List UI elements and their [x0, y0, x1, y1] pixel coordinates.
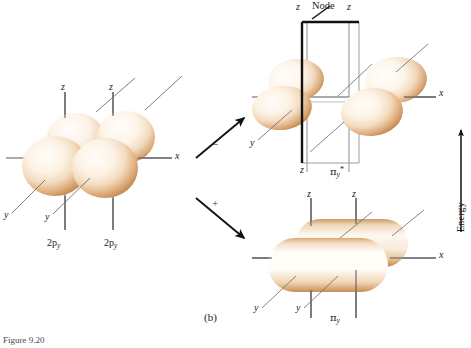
- orbital-label-2py-left-base: 2p: [47, 237, 57, 248]
- bonding-capsule-front: [268, 238, 388, 292]
- axis-label-y-bond-far-left: y: [254, 303, 258, 313]
- axis-label-z-reactant-right: z: [109, 82, 113, 92]
- axis-label-x-bond: x: [439, 250, 443, 260]
- reactant-orbital-group: [6, 76, 182, 230]
- figure-root: x z z y y 2py 2py − + Node z z x y z πy*…: [0, 0, 471, 348]
- axis-label-y-reactant-left: y: [45, 212, 49, 222]
- axis-label-z-reactant-left: z: [61, 82, 65, 92]
- bonding-sign: +: [212, 198, 218, 209]
- pi-sub-bond: y: [337, 316, 340, 325]
- y-leader-back-left: [96, 78, 135, 112]
- molecular-orbital-diagram: [0, 0, 471, 348]
- antibonding-orbital-group: [250, 6, 436, 172]
- reactant-lobe-front-right: [72, 138, 138, 198]
- orbital-label-2py-left: 2py: [47, 238, 60, 250]
- antibonding-arrow: [196, 118, 244, 158]
- bonding-orbital-group: [252, 198, 436, 318]
- orbital-label-2py-left-sub: y: [57, 241, 60, 250]
- orbital-label-2py-right-sub: y: [114, 241, 117, 250]
- orbital-label-2py-right: 2py: [104, 238, 117, 250]
- axis-label-z-bond-right: z: [352, 189, 356, 199]
- energy-axis-label: Energy: [456, 202, 466, 232]
- orbital-label-2py-right-base: 2p: [104, 237, 114, 248]
- panel-label: (b): [204, 312, 217, 323]
- pi-glyph-bond: π: [330, 312, 337, 323]
- axis-label-y-reactant-far-left: y: [4, 210, 8, 220]
- y-leader-back-right: [145, 76, 182, 110]
- y-leader-far-left: [12, 180, 45, 213]
- bonding-arrow: [196, 198, 244, 238]
- axis-label-z-anti-right: z: [347, 2, 351, 12]
- axis-label-x-reactant: x: [175, 151, 179, 161]
- node-label: Node: [312, 1, 335, 12]
- axis-label-z-anti-bottom-left: z: [300, 165, 304, 175]
- antibonding-sign: −: [212, 139, 218, 150]
- transition-arrows: [196, 118, 244, 238]
- axis-label-z-anti-left: z: [296, 2, 300, 12]
- axis-label-y-bond-left: y: [296, 303, 300, 313]
- orbital-label-pi-y-antibonding: πy*: [330, 166, 344, 179]
- pi-star-anti: *: [340, 165, 344, 174]
- axis-label-z-bond-left: z: [307, 189, 311, 199]
- axis-label-y-anti-left: y: [250, 138, 254, 148]
- figure-caption: Figure 9.20: [3, 336, 45, 345]
- pi-glyph-anti: π: [330, 166, 337, 177]
- orbital-label-pi-y-bonding: πy: [330, 313, 340, 325]
- axis-label-x-anti: x: [439, 88, 443, 98]
